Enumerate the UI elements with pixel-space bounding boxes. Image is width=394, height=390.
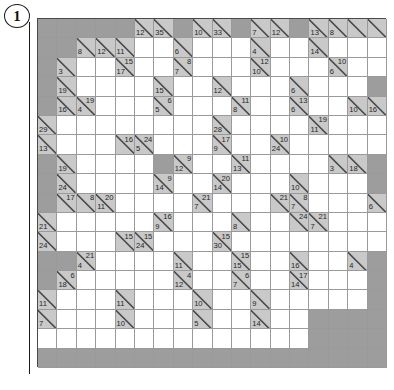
entry-cell[interactable] <box>290 135 309 154</box>
entry-cell[interactable] <box>290 310 309 329</box>
entry-cell[interactable] <box>57 290 76 309</box>
entry-cell[interactable] <box>116 252 135 271</box>
entry-cell[interactable] <box>271 232 290 251</box>
entry-cell[interactable] <box>232 194 251 213</box>
entry-cell[interactable] <box>251 77 270 96</box>
entry-cell[interactable] <box>96 252 115 271</box>
entry-cell[interactable] <box>213 310 232 329</box>
entry-cell[interactable] <box>329 77 348 96</box>
entry-cell[interactable] <box>96 213 115 232</box>
entry-cell[interactable] <box>135 271 154 290</box>
entry-cell[interactable] <box>329 271 348 290</box>
entry-cell[interactable] <box>271 329 290 348</box>
entry-cell[interactable] <box>193 135 212 154</box>
entry-cell[interactable] <box>135 290 154 309</box>
entry-cell[interactable] <box>77 271 96 290</box>
entry-cell[interactable] <box>154 329 173 348</box>
entry-cell[interactable] <box>193 213 212 232</box>
entry-cell[interactable] <box>232 135 251 154</box>
entry-cell[interactable] <box>154 252 173 271</box>
entry-cell[interactable] <box>135 97 154 116</box>
entry-cell[interactable] <box>329 116 348 135</box>
entry-cell[interactable] <box>309 252 328 271</box>
entry-cell[interactable] <box>154 135 173 154</box>
entry-cell[interactable] <box>116 194 135 213</box>
entry-cell[interactable] <box>154 271 173 290</box>
entry-cell[interactable] <box>116 97 135 116</box>
entry-cell[interactable] <box>329 194 348 213</box>
entry-cell[interactable] <box>96 135 115 154</box>
entry-cell[interactable] <box>232 290 251 309</box>
entry-cell[interactable] <box>251 135 270 154</box>
entry-cell[interactable] <box>57 232 76 251</box>
entry-cell[interactable] <box>348 271 367 290</box>
entry-cell[interactable] <box>116 329 135 348</box>
entry-cell[interactable] <box>96 232 115 251</box>
entry-cell[interactable] <box>309 77 328 96</box>
entry-cell[interactable] <box>154 38 173 57</box>
entry-cell[interactable] <box>329 97 348 116</box>
entry-cell[interactable] <box>348 213 367 232</box>
entry-cell[interactable] <box>193 271 212 290</box>
entry-cell[interactable] <box>96 271 115 290</box>
entry-cell[interactable] <box>213 252 232 271</box>
entry-cell[interactable] <box>271 77 290 96</box>
entry-cell[interactable] <box>96 290 115 309</box>
entry-cell[interactable] <box>77 290 96 309</box>
entry-cell[interactable] <box>251 329 270 348</box>
entry-cell[interactable] <box>96 329 115 348</box>
entry-cell[interactable] <box>174 213 193 232</box>
entry-cell[interactable] <box>251 213 270 232</box>
entry-cell[interactable] <box>232 310 251 329</box>
entry-cell[interactable] <box>271 38 290 57</box>
entry-cell[interactable] <box>193 174 212 193</box>
entry-cell[interactable] <box>290 329 309 348</box>
entry-cell[interactable] <box>290 58 309 77</box>
entry-cell[interactable] <box>116 213 135 232</box>
entry-cell[interactable] <box>309 174 328 193</box>
entry-cell[interactable] <box>135 116 154 135</box>
entry-cell[interactable] <box>309 155 328 174</box>
entry-cell[interactable] <box>309 58 328 77</box>
entry-cell[interactable] <box>232 329 251 348</box>
entry-cell[interactable] <box>193 329 212 348</box>
entry-cell[interactable] <box>368 135 387 154</box>
entry-cell[interactable] <box>271 271 290 290</box>
entry-cell[interactable] <box>174 97 193 116</box>
entry-cell[interactable] <box>271 155 290 174</box>
entry-cell[interactable] <box>348 58 367 77</box>
entry-cell[interactable] <box>368 58 387 77</box>
entry-cell[interactable] <box>329 135 348 154</box>
entry-cell[interactable] <box>57 310 76 329</box>
entry-cell[interactable] <box>329 38 348 57</box>
entry-cell[interactable] <box>135 77 154 96</box>
entry-cell[interactable] <box>116 271 135 290</box>
entry-cell[interactable] <box>77 135 96 154</box>
entry-cell[interactable] <box>368 213 387 232</box>
entry-cell[interactable] <box>77 155 96 174</box>
entry-cell[interactable] <box>174 116 193 135</box>
entry-cell[interactable] <box>271 252 290 271</box>
entry-cell[interactable] <box>77 77 96 96</box>
entry-cell[interactable] <box>309 290 328 309</box>
entry-cell[interactable] <box>193 58 212 77</box>
entry-cell[interactable] <box>251 252 270 271</box>
entry-cell[interactable] <box>213 38 232 57</box>
entry-cell[interactable] <box>271 213 290 232</box>
entry-cell[interactable] <box>77 174 96 193</box>
kakuro-grid[interactable]: 1235103371213881211641431715781012610191… <box>37 18 386 367</box>
entry-cell[interactable] <box>271 97 290 116</box>
entry-cell[interactable] <box>96 97 115 116</box>
entry-cell[interactable] <box>232 77 251 96</box>
entry-cell[interactable] <box>57 135 76 154</box>
entry-cell[interactable] <box>232 174 251 193</box>
entry-cell[interactable] <box>116 174 135 193</box>
entry-cell[interactable] <box>309 232 328 251</box>
entry-cell[interactable] <box>38 329 57 348</box>
entry-cell[interactable] <box>368 116 387 135</box>
entry-cell[interactable] <box>251 155 270 174</box>
entry-cell[interactable] <box>348 77 367 96</box>
entry-cell[interactable] <box>309 97 328 116</box>
entry-cell[interactable] <box>290 116 309 135</box>
entry-cell[interactable] <box>96 155 115 174</box>
